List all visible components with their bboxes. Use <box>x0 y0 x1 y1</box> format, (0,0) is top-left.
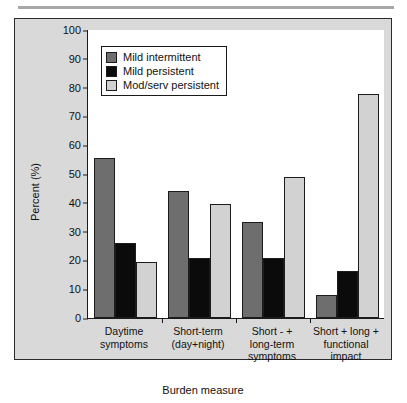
y-axis-tick-label: 90 <box>69 53 88 64</box>
bar <box>168 191 189 318</box>
y-axis-tick-label: 10 <box>69 284 88 295</box>
top-divider-rule <box>18 6 394 9</box>
legend-item[interactable]: Mild intermittent <box>106 50 219 64</box>
bar <box>284 177 305 318</box>
x-axis-tick-mark <box>162 318 163 323</box>
bar <box>115 243 136 318</box>
legend-label: Mild persistent <box>123 66 194 77</box>
y-axis-tick-label: 60 <box>69 140 88 151</box>
x-axis-group-label: Short + long + functional impact <box>309 325 383 363</box>
y-axis-tick-label: 20 <box>69 255 88 266</box>
y-axis-tick-label: 100 <box>63 25 88 36</box>
y-axis-tick-label: 0 <box>75 313 88 324</box>
y-axis-tick-label: 50 <box>69 169 88 180</box>
bar <box>263 258 284 318</box>
legend-swatch-mild-persistent <box>106 66 117 77</box>
legend-swatch-mild-intermittent <box>106 52 117 63</box>
x-axis-title: Burden measure <box>15 384 391 396</box>
x-axis-group-label: Short - + long-term symptoms <box>235 325 309 363</box>
bar <box>136 262 157 318</box>
bar <box>242 222 263 318</box>
y-axis-tick-label: 70 <box>69 111 88 122</box>
x-axis-group-label: Daytime symptoms <box>87 325 161 350</box>
y-axis-title: Percent (%) <box>29 163 41 221</box>
bar <box>337 271 358 318</box>
bar <box>94 158 115 318</box>
legend-label: Mod/serv persistent <box>123 80 219 91</box>
y-axis-tick-label: 80 <box>69 82 88 93</box>
bar <box>210 204 231 318</box>
figure-panel: Percent (%) 0102030405060708090100 Dayti… <box>14 18 392 360</box>
y-axis-tick-label: 40 <box>69 197 88 208</box>
bar <box>358 94 379 318</box>
y-axis-tick-label: 30 <box>69 226 88 237</box>
legend-label: Mild intermittent <box>123 52 201 63</box>
legend-swatch-mod-serv-persistent <box>106 80 117 91</box>
x-axis-tick-mark <box>310 318 311 323</box>
x-axis-tick-mark <box>236 318 237 323</box>
legend-item[interactable]: Mod/serv persistent <box>106 78 219 92</box>
chart-legend: Mild intermittent Mild persistent Mod/se… <box>101 46 227 96</box>
bar <box>189 258 210 318</box>
legend-item[interactable]: Mild persistent <box>106 64 219 78</box>
bar <box>316 295 337 318</box>
x-axis-group-label: Short-term (day+night) <box>161 325 235 350</box>
